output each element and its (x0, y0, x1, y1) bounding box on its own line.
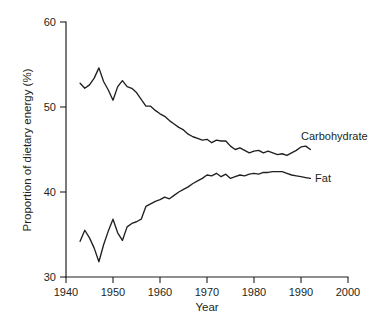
data-series-group (80, 68, 310, 262)
series-label-fat: Fat (315, 172, 331, 184)
chart-figure: 30405060 1940195019601970198019902000 Ca… (0, 0, 384, 335)
x-tick-label: 1970 (195, 286, 219, 298)
x-tick-label: 1940 (54, 286, 78, 298)
x-tick-label: 1960 (148, 286, 172, 298)
series-label-carbohydrate: Carbohydrate (301, 130, 368, 142)
y-axis: 30405060 (44, 16, 66, 283)
y-axis-title: Proportion of dietary energy (%) (21, 68, 33, 231)
x-tick-label: 1950 (101, 286, 125, 298)
y-axis-ticks: 30405060 (44, 16, 66, 283)
chart-plot-area: 30405060 1940195019601970198019902000 Ca… (0, 0, 384, 335)
series-line-carbohydrate (80, 68, 310, 156)
y-tick-label: 40 (44, 186, 56, 198)
x-axis-title: Year (195, 301, 218, 313)
x-axis-ticks: 1940195019601970198019902000 (54, 277, 360, 298)
y-tick-label: 50 (44, 101, 56, 113)
y-tick-label: 30 (44, 271, 56, 283)
x-axis: 1940195019601970198019902000 (54, 277, 360, 298)
x-tick-label: 1980 (242, 286, 266, 298)
series-label-group: CarbohydrateFat (301, 130, 368, 185)
x-tick-label: 2000 (336, 286, 360, 298)
x-tick-label: 1990 (289, 286, 313, 298)
y-tick-label: 60 (44, 16, 56, 28)
series-line-fat (80, 172, 310, 262)
